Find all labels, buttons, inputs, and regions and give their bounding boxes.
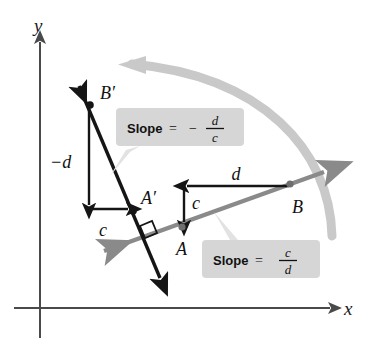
point-b: B <box>286 180 303 217</box>
point-a-prime-label: A′ <box>140 188 157 208</box>
callout-1-equals: = <box>169 121 177 136</box>
measure-label-neg-d: −d <box>50 152 72 172</box>
measure-label-d: d <box>232 164 242 184</box>
measure-rise-neg-d: −d <box>50 107 89 205</box>
point-a-label: A <box>175 239 188 259</box>
point-b-prime: B′ <box>86 83 116 109</box>
callout-2-prefix: Slope <box>213 253 248 268</box>
measure-run-c: c <box>89 209 128 240</box>
point-b-label: B <box>292 197 303 217</box>
callout-rotated-slope: Slope = − d c <box>110 108 244 176</box>
y-axis-label: y <box>32 15 43 36</box>
measure-label-c: c <box>192 193 200 213</box>
point-a: A <box>175 223 188 259</box>
callout-1-prefix: Slope <box>127 121 162 136</box>
callout-1-numerator: d <box>212 113 219 128</box>
callout-1-sign: − <box>189 121 197 136</box>
slope-diagram: y x d c −d c A B A′ <box>0 0 380 354</box>
callout-1-denominator: c <box>212 130 218 145</box>
coordinate-axes: y x <box>14 15 353 338</box>
callout-original-slope: Slope = c d <box>202 212 320 278</box>
x-axis-label: x <box>343 298 353 319</box>
callout-2-denominator: d <box>285 262 292 277</box>
callout-2-numerator: c <box>285 245 291 260</box>
callout-2-equals: = <box>255 253 263 268</box>
point-b-prime-label: B′ <box>100 83 116 103</box>
point-a-prime: A′ <box>129 188 157 215</box>
measure-label-c-rotated: c <box>99 220 107 240</box>
measure-run-d: d <box>187 164 289 186</box>
